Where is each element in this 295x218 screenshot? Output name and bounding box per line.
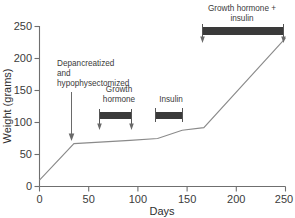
y-tick-label-250: 250 xyxy=(14,20,32,32)
annotation-gh-insulin-line1: Growth hormone + xyxy=(208,4,276,13)
annotation-depancreatized-line1: Depancreatized xyxy=(57,59,115,68)
annotation-gh-insulin-line2: insulin xyxy=(230,14,254,23)
x-tick-label-100: 100 xyxy=(129,193,147,205)
line-chart: 0 50 100 150 200 250 Weight (grams) 0 50… xyxy=(0,0,295,218)
x-axis-title: Days xyxy=(149,205,175,217)
annotation-growth-hormone-line2: hormone xyxy=(103,95,136,104)
x-tick-label-200: 200 xyxy=(227,193,245,205)
y-tick-label-150: 150 xyxy=(14,84,32,96)
annotation-growth-hormone-line1: Growth xyxy=(106,85,133,94)
x-tick-label-50: 50 xyxy=(83,193,95,205)
chart-container: 0 50 100 150 200 250 Weight (grams) 0 50… xyxy=(0,0,295,218)
gh-insulin-arrow-head-left xyxy=(200,37,205,44)
annotation-insulin-label: Insulin xyxy=(159,95,183,104)
annotation-insulin: Insulin xyxy=(156,95,184,122)
x-axis: 0 50 100 150 200 250 Days xyxy=(36,187,293,218)
y-tick-label-100: 100 xyxy=(14,116,32,128)
x-tick-label-150: 150 xyxy=(178,193,196,205)
y-tick-label-200: 200 xyxy=(14,52,32,64)
x-tick-label-0: 0 xyxy=(36,193,42,205)
x-tick-label-250: 250 xyxy=(275,193,293,205)
y-tick-label-0: 0 xyxy=(26,180,32,192)
annotation-depancreatized-line2: and xyxy=(57,69,71,78)
growth-hormone-treatment-bar xyxy=(100,112,131,119)
insulin-treatment-bar xyxy=(156,112,182,119)
growth-hormone-arrow-head-right xyxy=(129,124,134,131)
annotation-growth-hormone-plus-insulin: Growth hormone + insulin xyxy=(200,4,286,43)
depancreatized-arrow-head xyxy=(69,134,75,142)
y-axis-title: Weight (grams) xyxy=(1,69,13,144)
y-axis: 0 50 100 150 200 250 Weight (grams) xyxy=(1,20,40,192)
gh-insulin-treatment-bar xyxy=(203,27,283,35)
y-tick-label-50: 50 xyxy=(20,148,32,160)
growth-hormone-arrow-head-left xyxy=(97,124,102,131)
annotation-growth-hormone: Growth hormone xyxy=(97,85,135,130)
